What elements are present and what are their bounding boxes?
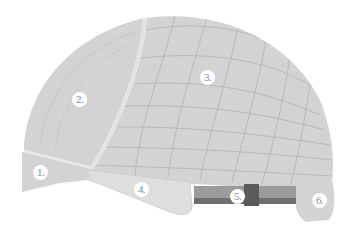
label-4: 4. (134, 182, 149, 197)
strap-buckle (244, 184, 259, 206)
label-6: 6. (312, 193, 327, 208)
label-1: 1. (33, 165, 48, 180)
cap-diagram (0, 0, 353, 238)
label-2: 2. (72, 92, 87, 107)
label-5: 5. (230, 189, 245, 204)
label-3: 3. (200, 70, 215, 85)
